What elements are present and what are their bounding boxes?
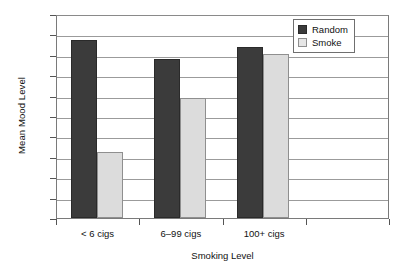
bar-smoke-3[interactable] bbox=[263, 54, 289, 218]
bar-random-1[interactable] bbox=[71, 40, 97, 219]
y-tick-mark bbox=[50, 35, 56, 36]
x-axis-title: Smoking Level bbox=[56, 250, 389, 261]
y-tick-mark bbox=[50, 199, 56, 200]
x-tick-label: 100+ cigs bbox=[209, 228, 319, 239]
x-tick-mark bbox=[389, 219, 390, 225]
y-tick-mark bbox=[50, 178, 56, 179]
y-axis-title: Mean Mood Level bbox=[16, 51, 27, 181]
bar-random-3[interactable] bbox=[237, 47, 263, 218]
legend-swatch-smoke bbox=[298, 38, 307, 47]
y-tick-mark bbox=[50, 56, 56, 57]
y-tick-mark bbox=[50, 15, 56, 16]
legend-swatch-random bbox=[298, 25, 307, 34]
gridline bbox=[57, 57, 388, 58]
y-tick-mark bbox=[50, 76, 56, 77]
y-tick-mark bbox=[50, 117, 56, 118]
bar-chart-figure: Mean Mood Level 55.25.45.65.866.26.46.66… bbox=[0, 0, 400, 275]
legend-item-smoke[interactable]: Smoke bbox=[298, 36, 348, 49]
bar-smoke-2[interactable] bbox=[180, 98, 206, 218]
bar-smoke-1[interactable] bbox=[97, 152, 123, 218]
x-tick-mark bbox=[139, 219, 140, 225]
y-tick-mark bbox=[50, 158, 56, 159]
x-tick-mark bbox=[306, 219, 307, 225]
y-tick-mark bbox=[50, 137, 56, 138]
gridline bbox=[57, 138, 388, 139]
y-tick-mark bbox=[50, 97, 56, 98]
x-tick-mark bbox=[223, 219, 224, 225]
legend-label-smoke: Smoke bbox=[312, 37, 342, 48]
gridline bbox=[57, 118, 388, 119]
legend-label-random: Random bbox=[312, 24, 348, 35]
legend-item-random[interactable]: Random bbox=[298, 23, 348, 36]
gridline bbox=[57, 77, 388, 78]
gridline bbox=[57, 98, 388, 99]
x-tick-mark bbox=[56, 219, 57, 225]
legend: Random Smoke bbox=[293, 19, 355, 53]
bar-random-2[interactable] bbox=[154, 59, 180, 218]
